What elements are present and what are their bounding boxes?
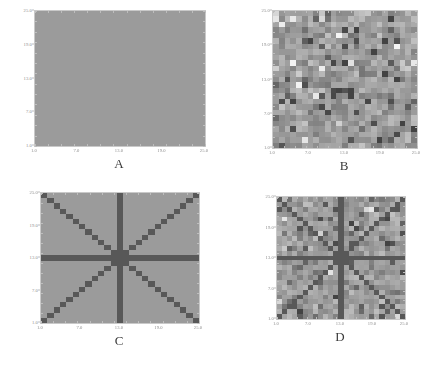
- axis-minor-tick: [203, 115, 205, 116]
- axis-minor-tick: [316, 317, 317, 319]
- axis-minor-tick: [140, 144, 141, 146]
- panel-a: 1.07.013.019.025.0 1.07.013.019.025.0 A: [8, 10, 212, 175]
- axis-minor-tick: [35, 94, 37, 95]
- panel-b-plot-area: 1.07.013.019.025.0 1.07.013.019.025.0 B: [246, 10, 424, 177]
- axis-minor-tick: [284, 146, 285, 148]
- axis-minor-tick: [277, 253, 279, 254]
- axis-minor-tick: [373, 146, 374, 148]
- axis-minor-tick: [403, 235, 405, 236]
- axis-minor-tick: [273, 22, 275, 23]
- axis-minor-tick: [203, 32, 205, 33]
- axis-minor-tick: [307, 197, 308, 199]
- axis-minor-tick: [277, 206, 279, 207]
- axis-minor-tick: [203, 125, 205, 126]
- axis-minor-tick: [127, 144, 128, 146]
- axis-minor-tick: [328, 11, 329, 13]
- axis-minor-tick: [326, 197, 327, 199]
- axis-minor-tick: [415, 32, 417, 33]
- axis-minor-tick: [403, 253, 405, 254]
- axis-minor-tick: [35, 115, 37, 116]
- axis-minor-tick: [35, 21, 37, 22]
- axis-minor-tick: [403, 281, 405, 282]
- axis-minor-tick: [163, 321, 164, 323]
- axis-minor-tick: [61, 11, 62, 13]
- panel-a-plot-area: 1.07.013.019.025.0 1.07.013.019.025.0 A: [8, 10, 212, 175]
- axis-minor-tick: [415, 106, 417, 107]
- axis-minor-tick: [417, 146, 418, 148]
- panel-b-xtick-label: 7.0: [305, 150, 311, 155]
- axis-minor-tick: [273, 53, 275, 54]
- panel-c-xtick-label: 19.0: [154, 325, 162, 330]
- axis-minor-tick: [175, 193, 176, 195]
- panel-b-letter: B: [340, 158, 349, 174]
- axis-minor-tick: [273, 148, 275, 149]
- axis-minor-tick: [35, 146, 37, 147]
- axis-minor-tick: [273, 85, 275, 86]
- axis-minor-tick: [273, 11, 274, 13]
- panel-d: 1.07.013.019.025.0 1.07.013.019.025.0 D: [250, 196, 412, 348]
- axis-minor-tick: [307, 317, 308, 319]
- axis-minor-tick: [197, 253, 199, 254]
- axis-minor-tick: [403, 244, 405, 245]
- axis-minor-tick: [405, 197, 406, 199]
- axis-minor-tick: [41, 273, 43, 274]
- axis-minor-tick: [375, 317, 376, 319]
- axis-minor-tick: [48, 11, 49, 13]
- panel-a-heatmap: [35, 11, 205, 146]
- axis-minor-tick: [417, 11, 418, 13]
- axis-minor-tick: [203, 53, 205, 54]
- panel-b-ytick-label: 19.0: [262, 42, 270, 47]
- axis-minor-tick: [100, 11, 101, 13]
- panel-a-letter: A: [114, 156, 123, 172]
- axis-minor-tick: [35, 63, 37, 64]
- panel-b-y-axis: 1.07.013.019.025.0: [246, 10, 272, 147]
- axis-minor-tick: [403, 319, 405, 320]
- axis-minor-tick: [336, 197, 337, 199]
- axis-minor-tick: [87, 11, 88, 13]
- panel-d-xtick-label: 13.0: [336, 321, 344, 326]
- panel-b: 1.07.013.019.025.0 1.07.013.019.025.0 B: [246, 10, 424, 177]
- axis-minor-tick: [166, 11, 167, 13]
- panel-c-letter: C: [115, 333, 124, 349]
- axis-minor-tick: [48, 144, 49, 146]
- axis-minor-tick: [138, 321, 139, 323]
- axis-minor-tick: [138, 193, 139, 195]
- axis-minor-tick: [114, 193, 115, 195]
- axis-minor-tick: [197, 213, 199, 214]
- axis-minor-tick: [415, 137, 417, 138]
- axis-minor-tick: [114, 321, 115, 323]
- axis-minor-tick: [35, 84, 37, 85]
- axis-minor-tick: [328, 146, 329, 148]
- axis-minor-tick: [403, 272, 405, 273]
- panel-d-heatmap: [277, 197, 405, 319]
- axis-minor-tick: [406, 11, 407, 13]
- axis-minor-tick: [273, 64, 275, 65]
- axis-minor-tick: [77, 193, 78, 195]
- axis-minor-tick: [395, 11, 396, 13]
- axis-minor-tick: [395, 197, 396, 199]
- axis-minor-tick: [403, 291, 405, 292]
- axis-minor-tick: [403, 206, 405, 207]
- axis-minor-tick: [415, 127, 417, 128]
- axis-minor-tick: [277, 235, 279, 236]
- axis-minor-tick: [41, 313, 43, 314]
- axis-minor-tick: [316, 197, 317, 199]
- axis-minor-tick: [203, 84, 205, 85]
- panel-b-heatmap-frame: [272, 10, 418, 149]
- axis-minor-tick: [197, 293, 199, 294]
- axis-minor-tick: [205, 144, 206, 146]
- axis-minor-tick: [277, 244, 279, 245]
- axis-minor-tick: [385, 317, 386, 319]
- panel-b-xtick-label: 19.0: [376, 150, 384, 155]
- axis-minor-tick: [277, 216, 279, 217]
- axis-minor-tick: [415, 43, 417, 44]
- axis-minor-tick: [203, 136, 205, 137]
- panel-c-heatmap-frame: [40, 192, 200, 324]
- axis-minor-tick: [35, 53, 37, 54]
- axis-minor-tick: [65, 193, 66, 195]
- axis-minor-tick: [415, 85, 417, 86]
- panel-a-heatmap-frame: [34, 10, 206, 147]
- axis-minor-tick: [356, 317, 357, 319]
- axis-minor-tick: [415, 64, 417, 65]
- axis-minor-tick: [197, 223, 199, 224]
